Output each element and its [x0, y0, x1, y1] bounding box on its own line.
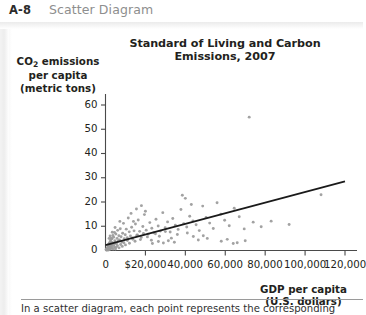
scatter-point	[201, 205, 204, 208]
scatter-point	[169, 231, 172, 234]
y-tick-label: 0	[64, 244, 98, 255]
scatter-point	[151, 242, 154, 245]
figure-caption: In a scatter diagram, each point represe…	[21, 303, 363, 315]
scatter-point	[105, 248, 108, 251]
scatter-point	[157, 225, 160, 228]
scatter-point	[176, 233, 179, 236]
scatter-point	[164, 230, 167, 233]
scatter-point	[121, 245, 124, 248]
scatter-point	[184, 197, 187, 200]
scatter-point	[128, 242, 131, 245]
scatter-point	[124, 243, 127, 246]
scatter-point	[150, 227, 153, 230]
scatter-point	[212, 227, 215, 230]
y-tick-label: 40	[64, 147, 98, 158]
scatter-point	[158, 235, 161, 238]
scatter-point	[162, 242, 165, 245]
x-tick-label: 80,000	[247, 259, 283, 270]
scatter-point	[111, 231, 114, 234]
x-tick-label: $20,000	[124, 259, 166, 270]
scatter-point	[170, 237, 173, 240]
scatter-point	[155, 218, 158, 221]
scatter-point	[188, 215, 191, 218]
scatter-point	[248, 116, 251, 119]
y-tick-label: 50	[64, 123, 98, 134]
x-tick-label: 120,000	[324, 259, 366, 270]
scatter-point	[167, 239, 170, 242]
scatter-point	[157, 240, 160, 243]
y-tick-label: 20	[64, 196, 98, 207]
scatter-point	[177, 228, 180, 231]
scatter-point	[112, 236, 115, 239]
scatter-point	[134, 223, 137, 226]
scatter-point	[119, 227, 122, 230]
scatter-point	[120, 235, 123, 238]
scatter-point	[190, 203, 193, 206]
x-tick-label: 0	[103, 259, 109, 270]
y-tick-label: 60	[64, 99, 98, 110]
scatter-point	[130, 226, 133, 229]
scatter-point	[223, 219, 226, 222]
scatter-point	[124, 233, 127, 236]
figure-header-title: Scatter Diagram	[49, 2, 153, 17]
scatter-point	[185, 226, 188, 229]
page-edge-strip	[0, 0, 9, 315]
scatter-point	[192, 235, 195, 238]
trend-line	[106, 181, 346, 245]
scatter-point	[198, 229, 201, 232]
scatter-point	[128, 230, 131, 233]
scatter-point	[125, 228, 128, 231]
scatter-point	[270, 220, 273, 223]
scatter-point	[243, 227, 246, 230]
scatter-point	[133, 229, 136, 232]
scatter-point	[141, 225, 144, 228]
scatter-point	[244, 239, 247, 242]
scatter-point	[143, 213, 146, 216]
scatter-point	[144, 210, 147, 213]
scatter-point	[108, 237, 111, 240]
scatter-point	[148, 221, 151, 224]
y-tick-label: 30	[64, 171, 98, 182]
scatter-point	[138, 230, 141, 233]
scatter-point	[137, 218, 140, 221]
scatter-plot: 01020304050600$20,00040,00060,00080,0001…	[12, 29, 363, 315]
caption-divider	[21, 299, 363, 300]
scatter-point	[220, 240, 223, 243]
scatter-point	[173, 241, 176, 244]
x-tick-label: 60,000	[207, 259, 243, 270]
x-tick-label: 40,000	[167, 259, 203, 270]
scatter-point	[206, 237, 209, 240]
scatter-point	[233, 207, 236, 210]
scatter-point	[145, 229, 148, 232]
figure-card: Standard of Living and Carbon Emissions,…	[12, 29, 363, 315]
scatter-point	[127, 217, 130, 220]
scatter-point	[114, 233, 117, 236]
scatter-point	[195, 223, 198, 226]
scatter-point	[118, 246, 121, 249]
scatter-point	[216, 201, 219, 204]
scatter-point	[140, 204, 143, 207]
scatter-point	[130, 212, 133, 215]
scatter-point	[135, 208, 138, 211]
scatter-point	[121, 232, 124, 235]
scatter-point	[208, 222, 211, 225]
scatter-point	[114, 226, 117, 229]
scatter-point	[161, 211, 164, 214]
scatter-point	[260, 225, 263, 228]
x-tick-label: 100,000	[284, 259, 326, 270]
scatter-point	[202, 234, 205, 237]
scatter-point	[171, 217, 174, 220]
scatter-point	[134, 240, 137, 243]
scatter-point	[139, 238, 142, 241]
scatter-point	[232, 242, 235, 245]
scatter-point	[122, 222, 125, 225]
scatter-point	[181, 194, 184, 197]
scatter-point	[116, 229, 119, 232]
y-tick-label: 10	[64, 220, 98, 231]
scatter-point	[236, 241, 239, 244]
scatter-point	[113, 245, 116, 248]
scatter-point	[228, 224, 231, 227]
scatter-point	[320, 193, 323, 196]
scatter-point	[146, 235, 149, 238]
scatter-point	[150, 239, 153, 242]
